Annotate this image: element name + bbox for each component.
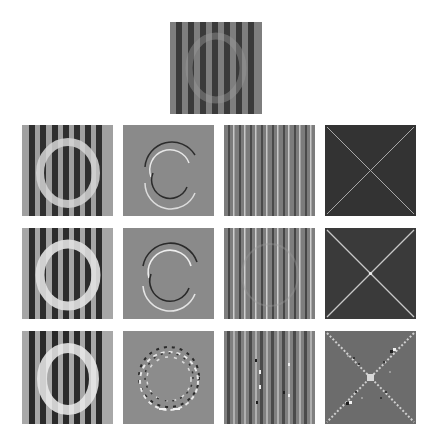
gray-x-dotted-image [325, 331, 416, 424]
panel-r3-c2 [123, 331, 214, 424]
stripes-ring-image [22, 125, 113, 216]
panel-r3-c1 [22, 331, 113, 424]
panel-r3-c4 [325, 331, 416, 424]
stripes-ring-image [22, 331, 113, 424]
fine-stripes-image [224, 125, 315, 216]
ring-edges-dotted-image [123, 331, 214, 424]
ring-edges-image [123, 228, 214, 319]
fine-stripes-image [224, 228, 315, 319]
dark-x-image [325, 125, 416, 216]
panel-r2-c1 [22, 228, 113, 319]
panel-r2-c4 [325, 228, 416, 319]
panel-r2-c3 [224, 228, 315, 319]
panel-r2-c2 [123, 228, 214, 319]
panel-r1-c2 [123, 125, 214, 216]
panel-r1-c3 [224, 125, 315, 216]
panel-original [170, 22, 262, 114]
stripes-ring-image [22, 228, 113, 319]
dark-x-image [325, 228, 416, 319]
original-stripes-image [170, 22, 262, 114]
fine-stripes-noisy-image [224, 331, 315, 424]
panel-r3-c3 [224, 331, 315, 424]
panel-r1-c4 [325, 125, 416, 216]
ring-edges-image [123, 125, 214, 216]
panel-r1-c1 [22, 125, 113, 216]
